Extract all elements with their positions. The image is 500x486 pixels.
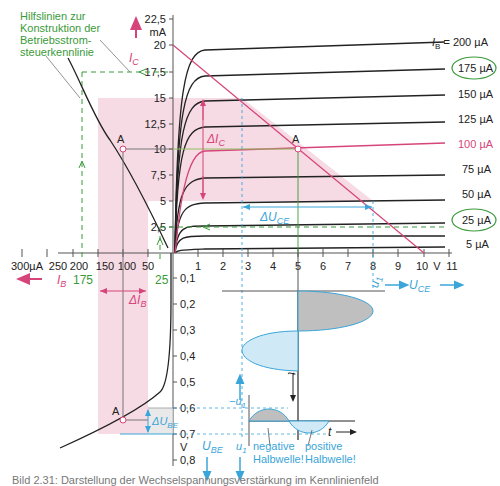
input-waveform: t −u1 u1 negative Halbwelle! positive Ha… [173,395,356,477]
svg-text:12,5: 12,5 [145,118,166,130]
svg-text:125 µA: 125 µA [458,113,494,125]
svg-text:UBE: UBE [202,439,224,455]
svg-text:5: 5 [160,195,166,207]
svg-text:UCE: UCE [409,278,431,294]
svg-text:3: 3 [245,260,251,272]
svg-text:150: 150 [96,260,114,272]
svg-text:7: 7 [345,260,351,272]
svg-text:25: 25 [155,273,169,287]
svg-text:V: V [433,260,441,272]
helper-lines-annotation: Hilfslinien zur Konstruktion der Betrieb… [20,10,130,98]
svg-text:0,2: 0,2 [180,298,195,310]
svg-text:15: 15 [154,92,166,104]
svg-text:20: 20 [154,39,166,51]
svg-text:negative Halbwelle!: negative Halbwelle! [253,440,304,465]
ube-axis-title: UBE [202,439,224,477]
svg-text:0,5: 0,5 [180,376,195,388]
svg-text:−u1: −u1 [229,395,246,410]
svg-text:positive Halbwelle!: positive Halbwelle! [305,440,356,465]
svg-text:IC: IC [129,51,139,67]
svg-text:Hilfslinien zur Konstruk: Hilfslinien zur Konstruktion der Betrieb… [20,10,103,58]
svg-text:11: 11 [446,260,457,272]
svg-text:0,1: 0,1 [180,272,195,284]
svg-text:300µA: 300µA [11,260,44,272]
svg-text:10: 10 [416,260,428,272]
svg-text:175: 175 [73,273,93,287]
svg-text:250: 250 [49,260,67,272]
svg-text:t: t [328,425,332,439]
ube-axis-ticks [173,278,177,460]
svg-text:22,5: 22,5 [145,13,166,25]
svg-text:50 µA: 50 µA [462,188,492,200]
svg-text:V: V [180,441,188,453]
uce-axis-labels: 1 2 3 4 5 6 7 8 9 10 V 11 [195,260,458,272]
svg-text:25 µA: 25 µA [462,214,492,226]
svg-text:9: 9 [395,260,401,272]
output-waveform: t [222,291,385,440]
svg-text:150 µA: 150 µA [458,88,494,100]
svg-text:4: 4 [270,260,276,272]
svg-text:75 µA: 75 µA [462,163,492,175]
svg-text:2: 2 [220,260,226,272]
svg-text:6: 6 [320,260,326,272]
svg-text:t: t [286,372,297,376]
svg-text:u1: u1 [367,275,385,289]
svg-text:175 µA: 175 µA [458,62,494,74]
svg-text:A: A [292,133,300,145]
svg-text:A: A [117,133,125,145]
svg-text:100: 100 [118,260,136,272]
svg-text:u1: u1 [236,440,247,455]
svg-text:1: 1 [195,260,201,272]
svg-text:0,4: 0,4 [180,350,195,362]
svg-text:0,3: 0,3 [180,324,195,336]
ic-axis-title: IC [129,22,139,67]
svg-text:A: A [112,405,120,417]
svg-text:IB: IB [57,273,66,289]
svg-text:50: 50 [142,260,154,272]
svg-text:ΔUCE: ΔUCE [259,210,290,226]
ube-axis-labels: 0,1 0,2 0,3 0,4 0,5 0,6 0,7 V 0,8 [180,272,195,466]
ib-axis-labels: 300µA 250 200 150 100 50 [11,260,154,272]
svg-text:5 µA: 5 µA [466,238,490,250]
svg-text:7,5: 7,5 [151,169,166,181]
figure-caption: Bild 2.31: Darstellung der Wechselspannu… [12,474,379,486]
svg-text:200: 200 [70,260,88,272]
transistor-characteristics-diagram: 2,5 5 7,5 10 12,5 15 17,5 20 22,5 mA IC … [0,0,500,486]
svg-text:100 µA: 100 µA [458,138,494,150]
svg-text:0,8: 0,8 [180,454,195,466]
svg-text:IB= 200 µA: IB= 200 µA [432,36,489,51]
svg-text:mA: mA [150,26,167,38]
